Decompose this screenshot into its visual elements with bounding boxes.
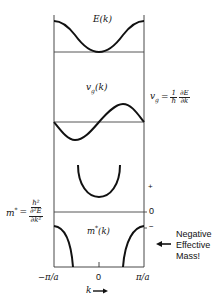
energy-label: E(k) <box>93 15 112 24</box>
negative-mass-annotation: Negative Effective Mass! <box>176 229 212 261</box>
gv-frac2-den: ∂k <box>180 98 188 105</box>
annotation-line-3: Mass! <box>176 251 212 262</box>
em-eq-frac: ħ² ∂²E ∂k² <box>29 200 43 224</box>
em-frac-den-bottom: ∂k² <box>31 217 42 224</box>
energy-curve <box>54 21 144 52</box>
gv-eq-frac1: 1ħ <box>170 90 176 106</box>
k-axis-label: k <box>86 286 91 295</box>
em-eq-lhs-sup: * <box>15 206 18 213</box>
annotation-line-2: Effective <box>176 240 212 251</box>
mass-label: m*(k) <box>87 225 110 235</box>
tick-zero: 0 <box>96 273 101 282</box>
group-velocity-equation: vg = 1ħ ∂E∂k <box>150 90 190 106</box>
gv-eq-equals: = <box>161 93 169 102</box>
em-eq-lhs: m <box>6 208 15 218</box>
velocity-label: vg(k) <box>86 83 107 94</box>
minus-marker: − <box>149 223 154 231</box>
k-arrow-head <box>103 289 108 294</box>
mass-label-tail: (k) <box>98 226 110 236</box>
gv-eq-lhs-sub: g <box>155 96 159 103</box>
zero-marker: 0 <box>149 207 154 216</box>
tick-neg-pi-a: −π/a <box>38 273 59 282</box>
annotation-arrow-head <box>156 241 162 247</box>
negative-mass-curve-left <box>54 226 73 267</box>
positive-mass-curve <box>78 165 120 197</box>
tick-pi-a: π/a <box>136 273 150 282</box>
em-eq-equals: = <box>20 208 28 217</box>
gv-eq-frac2: ∂E∂k <box>179 90 190 106</box>
mass-label-main: m <box>87 226 95 236</box>
velocity-label-tail: (k) <box>95 82 107 92</box>
annotation-line-1: Negative <box>176 229 212 240</box>
em-frac-den: ∂²E ∂k² <box>29 208 43 224</box>
plus-marker: + <box>148 183 153 191</box>
negative-mass-curve-right <box>123 226 144 267</box>
gv-frac1-den: ħ <box>171 98 176 105</box>
effective-mass-equation: m* = ħ² ∂²E ∂k² <box>6 200 43 224</box>
